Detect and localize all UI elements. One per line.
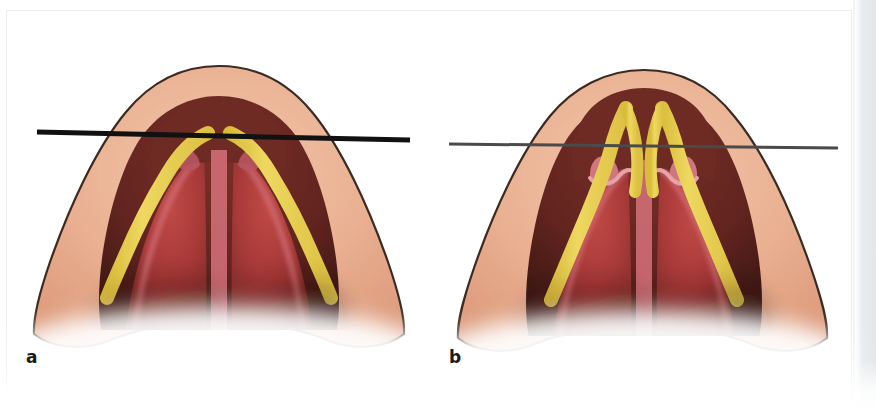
panel-label-a: a — [26, 347, 37, 367]
panel-a: a — [0, 0, 438, 411]
panel-b: b — [438, 0, 876, 411]
horizontal-reference-line-b — [449, 144, 838, 148]
figure-root: a — [0, 0, 876, 411]
bottom-white-wash-b — [438, 310, 852, 402]
nose-illustration-b — [438, 0, 876, 411]
nose-illustration-a — [0, 0, 438, 411]
panel-label-b: b — [449, 347, 461, 367]
bottom-white-wash-a — [9, 306, 429, 398]
